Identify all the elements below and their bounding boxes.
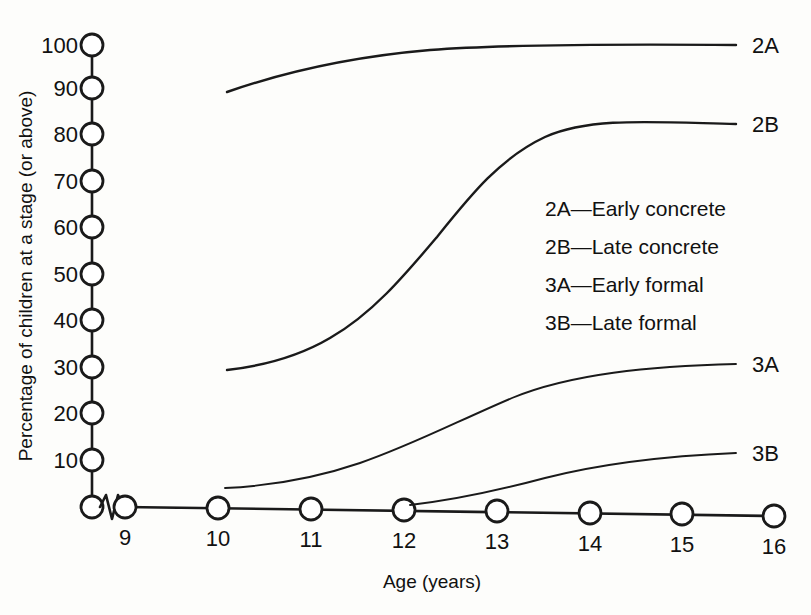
y-tick-marker-80: [81, 123, 103, 145]
x-tick-label-12: 12: [392, 528, 416, 553]
x-tick-label-13: 13: [485, 529, 509, 554]
x-axis: 9 10 11 12 13 14 15 16 Age (years): [100, 495, 786, 592]
x-tick-marker-11: [300, 498, 322, 520]
x-axis-title: Age (years): [383, 571, 481, 592]
x-tick-label-11: 11: [300, 527, 323, 552]
y-axis-title: Percentage of children at a stage (or ab…: [15, 91, 36, 462]
x-tick-label-10: 10: [206, 526, 230, 551]
x-tick-marker-14: [579, 502, 601, 524]
y-tick-marker-60: [81, 216, 103, 238]
curve-3a: [225, 364, 736, 488]
legend-item-3a: 3A—Early formal: [545, 273, 704, 296]
curve-2a: [227, 45, 736, 92]
y-tick-marker-70: [81, 170, 103, 192]
y-tick-label-30: 30: [54, 355, 78, 380]
chart-figure: 100 90 80 70 60 50 40 30 20 10 Percentag…: [0, 0, 811, 615]
curve-label-2b: 2B: [752, 112, 779, 137]
legend-item-3b: 3B—Late formal: [545, 311, 697, 334]
x-tick-label-16: 16: [762, 534, 786, 559]
chart-canvas: 100 90 80 70 60 50 40 30 20 10 Percentag…: [0, 0, 811, 615]
y-tick-marker-50: [81, 263, 103, 285]
x-tick-label-9: 9: [119, 525, 131, 550]
x-tick-marker-10: [207, 497, 229, 519]
y-tick-label-80: 80: [54, 122, 78, 147]
x-tick-label-14: 14: [578, 531, 602, 556]
y-tick-marker-20: [81, 402, 103, 424]
y-tick-label-60: 60: [54, 215, 78, 240]
curve-label-2a: 2A: [752, 33, 779, 58]
y-tick-marker-90: [81, 77, 103, 99]
x-tick-label-15: 15: [670, 532, 694, 557]
x-tick-marker-13: [486, 500, 508, 522]
x-tick-marker-15: [671, 503, 693, 525]
x-tick-marker-16: [763, 505, 785, 527]
y-tick-label-70: 70: [54, 169, 78, 194]
y-axis: 100 90 80 70 60 50 40 30 20 10 Percentag…: [15, 33, 103, 518]
y-tick-label-100: 100: [41, 33, 78, 58]
y-tick-marker-30: [81, 356, 103, 378]
y-tick-label-20: 20: [54, 401, 78, 426]
y-tick-marker-10: [81, 449, 103, 471]
y-tick-marker-100: [81, 34, 103, 56]
curve-label-3a: 3A: [752, 352, 779, 377]
y-tick-marker-40: [81, 309, 103, 331]
y-tick-label-10: 10: [54, 448, 78, 473]
legend-item-2a: 2A—Early concrete: [545, 197, 726, 220]
curve-end-labels: 2A 2B 3A 3B: [752, 33, 779, 466]
x-tick-marker-12: [393, 499, 415, 521]
curve-label-3b: 3B: [752, 441, 779, 466]
y-tick-label-50: 50: [54, 262, 78, 287]
legend: 2A—Early concrete 2B—Late concrete 3A—Ea…: [545, 197, 726, 334]
y-tick-label-90: 90: [54, 76, 78, 101]
y-tick-label-40: 40: [54, 308, 78, 333]
legend-item-2b: 2B—Late concrete: [545, 235, 719, 258]
x-tick-marker-9: [114, 496, 136, 518]
curve-3b: [410, 453, 736, 505]
